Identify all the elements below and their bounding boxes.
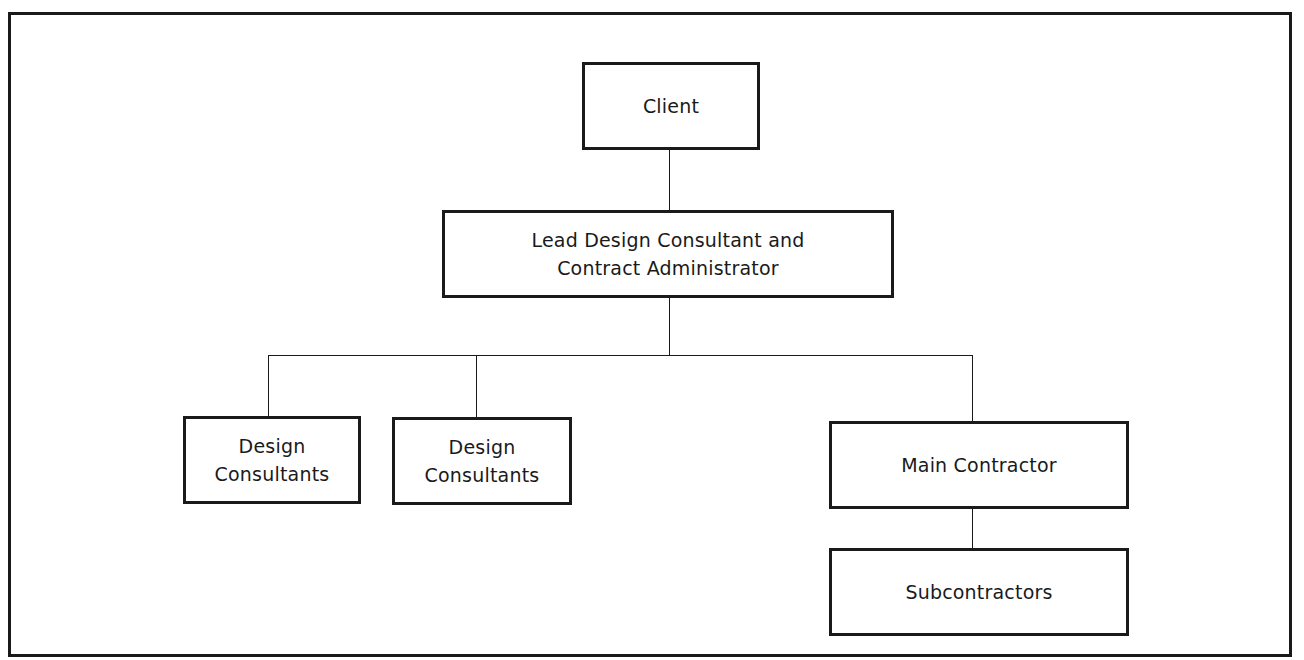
node-lead-design-consultant: Lead Design Consultant and Contract Admi…: [442, 210, 894, 298]
node-main-contractor: Main Contractor: [829, 421, 1129, 509]
node-design2-label-line1: Design: [425, 433, 540, 461]
connector-lead-bus: [669, 296, 670, 355]
connector-client-lead: [669, 148, 670, 211]
node-sub-label: Subcontractors: [905, 578, 1052, 606]
node-client-label: Client: [643, 92, 699, 120]
node-design1-label-line2: Consultants: [215, 460, 330, 488]
node-design1-label-line1: Design: [215, 432, 330, 460]
node-subcontractors: Subcontractors: [829, 548, 1129, 636]
node-main-label: Main Contractor: [901, 451, 1057, 479]
node-client: Client: [582, 62, 760, 150]
node-design-consultants-1: Design Consultants: [183, 416, 361, 504]
connector-bus-design1: [268, 355, 269, 417]
connector-bus-main: [972, 355, 973, 422]
connector-main-sub: [972, 506, 973, 551]
node-lead-label-line2: Contract Administrator: [531, 254, 804, 282]
node-design2-label-line2: Consultants: [425, 461, 540, 489]
node-design-consultants-2: Design Consultants: [392, 417, 572, 505]
connector-horizontal-bus: [268, 355, 973, 356]
node-lead-label-line1: Lead Design Consultant and: [531, 226, 804, 254]
connector-bus-design2: [476, 355, 477, 418]
